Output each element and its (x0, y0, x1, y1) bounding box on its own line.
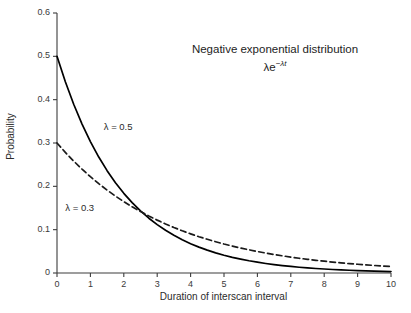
chart-formula: λe−λt (160, 62, 390, 74)
y-axis-tick-label: 0 (20, 268, 50, 277)
y-axis-tick-label: 0.5 (20, 51, 50, 60)
x-axis-tick-label: 8 (312, 280, 336, 289)
x-axis-tick-label: 3 (145, 280, 169, 289)
x-axis-tick-label: 1 (78, 280, 102, 289)
y-axis-title-wrap: Probability (2, 0, 18, 273)
x-axis-tick-label: 7 (279, 280, 303, 289)
y-axis-title: Probability (5, 113, 16, 160)
series-annotation-lambda-0-5: λ = 0.5 (104, 122, 133, 132)
series-group (57, 56, 391, 271)
formula-exponent: −λt (276, 59, 287, 68)
chart-container: 00.10.20.30.40.50.6 012345678910 Probabi… (0, 0, 411, 313)
x-axis-tick-label: 10 (379, 280, 403, 289)
x-axis-tick-label: 5 (212, 280, 236, 289)
x-axis-ticks (57, 273, 391, 277)
series-line-lambda-0-5 (57, 56, 391, 271)
chart-title: Negative exponential distribution (160, 44, 390, 56)
formula-base: λe (264, 61, 276, 73)
y-axis-tick-label: 0.6 (20, 8, 50, 17)
y-axis-tick-label: 0.2 (20, 181, 50, 190)
x-axis-tick-label: 4 (179, 280, 203, 289)
series-line-lambda-0-3 (57, 143, 391, 267)
x-axis-tick-label: 2 (112, 280, 136, 289)
x-axis-title: Duration of interscan interval (57, 292, 390, 302)
x-axis-tick-label: 0 (45, 280, 69, 289)
y-axis-tick-label: 0.1 (20, 225, 50, 234)
x-axis-tick-label: 9 (346, 280, 370, 289)
y-axis-tick-label: 0.3 (20, 138, 50, 147)
x-axis-tick-label: 6 (245, 280, 269, 289)
series-annotation-lambda-0-3: λ = 0.3 (65, 203, 94, 213)
y-axis-tick-label: 0.4 (20, 95, 50, 104)
